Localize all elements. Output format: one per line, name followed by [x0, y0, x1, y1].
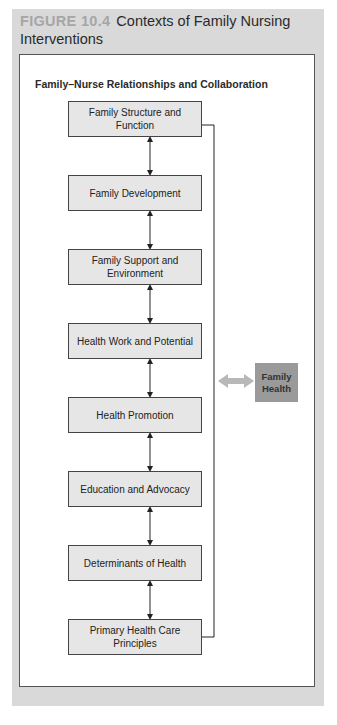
box-education-advocacy: Education and Advocacy: [68, 471, 202, 507]
box-health-work: Health Work and Potential: [68, 323, 202, 359]
double-arrow-icon: [218, 374, 254, 388]
box-health-promotion: Health Promotion: [68, 397, 202, 433]
box-primary-health-care: Primary Health Care Principles: [68, 619, 202, 655]
box-family-support: Family Support and Environment: [68, 249, 202, 285]
family-health-box: Family Health: [255, 363, 298, 402]
box-family-structure: Family Structure and Function: [68, 101, 202, 137]
box-determinants-of-health: Determinants of Health: [68, 545, 202, 581]
box-family-development: Family Development: [68, 175, 202, 211]
